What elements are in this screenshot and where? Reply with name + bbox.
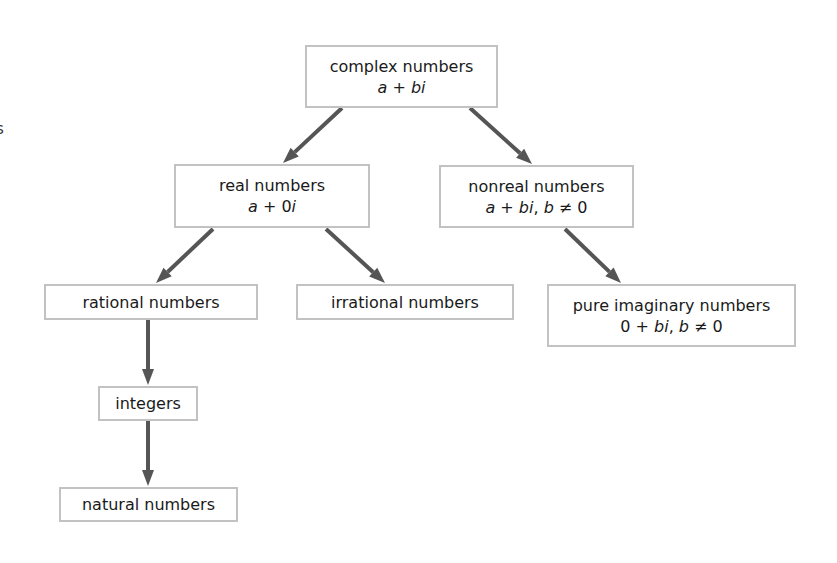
node-natural-numbers: natural numbers [59, 487, 238, 522]
node-label: pure imaginary numbers [573, 295, 771, 316]
cropped-text-fragment: s [0, 120, 4, 138]
node-nonreal-numbers: nonreal numbers a + bi, b ≠ 0 [439, 165, 634, 228]
node-label: irrational numbers [331, 292, 479, 313]
node-label: natural numbers [82, 494, 215, 515]
node-formula: 0 + bi, b ≠ 0 [620, 316, 722, 337]
arrow-integers-to-natural [142, 421, 154, 486]
node-real-numbers: real numbers a + 0i [174, 164, 370, 228]
arrow-complex-to-nonreal [470, 108, 532, 164]
arrow-nonreal-to-pure_imaginary [565, 229, 621, 283]
arrow-real-to-irrational [326, 229, 385, 283]
node-formula: a + 0i [248, 196, 296, 217]
node-label: complex numbers [330, 56, 474, 77]
node-irrational-numbers: irrational numbers [296, 284, 514, 320]
node-complex-numbers: complex numbers a + bi [305, 45, 498, 108]
cropped-text-fragment: . [0, 88, 1, 106]
arrow-real-to-rational [156, 229, 213, 283]
node-formula: a + bi, b ≠ 0 [485, 197, 587, 218]
node-label: rational numbers [82, 292, 219, 313]
arrow-rational-to-integers [142, 320, 154, 385]
node-label: real numbers [219, 175, 325, 196]
node-integers: integers [98, 386, 198, 421]
node-rational-numbers: rational numbers [44, 284, 258, 320]
node-formula: a + bi [378, 77, 426, 98]
node-label: integers [115, 393, 181, 414]
node-label: nonreal numbers [468, 176, 604, 197]
arrow-complex-to-real [283, 108, 342, 163]
node-pure-imaginary-numbers: pure imaginary numbers 0 + bi, b ≠ 0 [547, 284, 796, 347]
